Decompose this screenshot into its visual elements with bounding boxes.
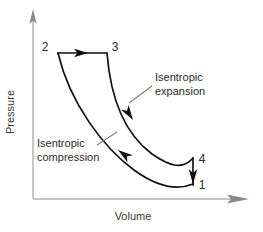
x-axis-label: Volume: [115, 210, 152, 222]
leader-line-expansion: [129, 86, 152, 103]
state-point-label-3: 3: [112, 40, 119, 54]
annotation-isentropic-compression: Isentropic compression: [37, 137, 99, 163]
state-point-labels-group: 2 3 4 1: [42, 40, 206, 192]
annotation-expansion-line1: Isentropic: [155, 71, 203, 83]
annotation-expansion-line2: expansion: [155, 85, 205, 97]
flow-arrowheads-group: [74, 49, 197, 184]
annotation-compression-line2: compression: [37, 151, 99, 163]
state-point-label-4: 4: [199, 152, 206, 166]
annotation-isentropic-expansion: Isentropic expansion: [155, 71, 205, 97]
pv-diagram-figure: 2 3 4 1 Isentropic expansion Isentropic …: [0, 0, 263, 232]
process-path-isentropic-expansion: [107, 53, 193, 165]
state-point-label-1: 1: [199, 178, 206, 192]
flow-arrow-1-to-2: [115, 146, 132, 162]
state-point-label-2: 2: [42, 40, 49, 54]
leader-lines-group: [97, 86, 152, 145]
annotation-compression-line1: Isentropic: [37, 137, 85, 149]
leader-line-compression: [97, 132, 117, 145]
y-axis-label: Pressure: [4, 90, 16, 134]
